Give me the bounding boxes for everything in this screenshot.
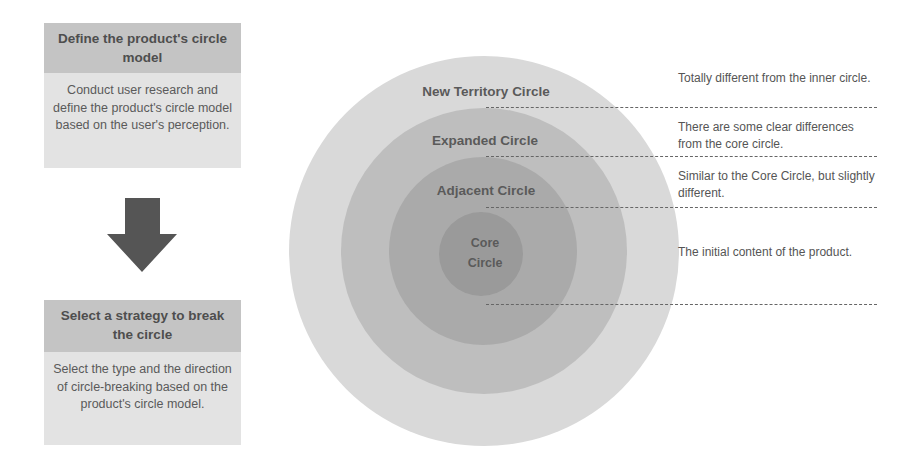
divider-line — [486, 107, 877, 108]
description-adjacent: Similar to the Core Circle, but slightly… — [678, 168, 878, 202]
core-circle — [439, 212, 523, 296]
divider-line — [486, 156, 877, 157]
description-new-territory: Totally different from the inner circle. — [678, 70, 878, 87]
circle-label-new-territory: New Territory Circle — [422, 84, 549, 99]
circle-label-adjacent: Adjacent Circle — [437, 183, 535, 198]
description-expanded: There are some clear differences from th… — [678, 119, 878, 153]
divider-line — [486, 304, 877, 305]
circle-label-core-line2: Circle — [468, 256, 503, 270]
circle-label-expanded: Expanded Circle — [432, 133, 538, 148]
description-core: The initial content of the product. — [678, 244, 878, 261]
divider-line — [486, 207, 877, 208]
circle-label-core-line1: Core — [471, 236, 499, 250]
